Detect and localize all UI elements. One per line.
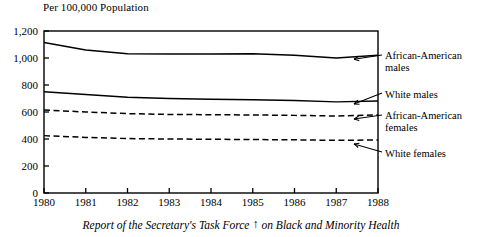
series-label-line: African-American: [385, 110, 462, 122]
series-label-african-american-females: African-American females: [385, 110, 462, 133]
series-label-line: African-American: [385, 50, 462, 62]
series-label-african-american-males: African-American males: [385, 50, 462, 73]
x-axis-tick-label: 1985: [233, 197, 273, 208]
x-axis-tick-label: 1980: [24, 197, 64, 208]
series-label-line: females: [385, 122, 462, 134]
y-axis-tick-label: 400: [0, 134, 38, 145]
x-axis-tick-label: 1986: [275, 197, 315, 208]
series-label-white-females: White females: [385, 148, 446, 160]
x-axis-tick-label: 1984: [191, 197, 231, 208]
x-axis-tick-label: 1982: [108, 197, 148, 208]
x-axis-tick-label: 1981: [66, 197, 106, 208]
chart-figure: Per 100,000 Population 02004006008001,00…: [0, 0, 482, 237]
series-label-line: males: [385, 62, 462, 74]
y-axis-tick-label: 1,200: [0, 26, 38, 37]
y-axis-tick-label: 600: [0, 107, 38, 118]
footer-text-before: Report of the Secretary's Task Force: [83, 219, 250, 231]
x-axis-tick-label: 1988: [358, 197, 398, 208]
y-axis-tick-label: 1,000: [0, 53, 38, 64]
chart-series-lines: [44, 42, 378, 140]
up-arrow-icon: ↑: [249, 217, 261, 232]
y-axis-tick-label: 200: [0, 161, 38, 172]
series-label-line: White males: [385, 89, 438, 101]
x-axis-tick-label: 1983: [149, 197, 189, 208]
footer-text-after: on Black and Minority Health: [261, 219, 399, 231]
series-label-white-males: White males: [385, 89, 438, 101]
series-label-line: White females: [385, 148, 446, 160]
footer-caption: Report of the Secretary's Task Force↑on …: [0, 218, 482, 233]
y-axis-tick-label: 800: [0, 80, 38, 91]
x-axis-tick-label: 1987: [316, 197, 356, 208]
